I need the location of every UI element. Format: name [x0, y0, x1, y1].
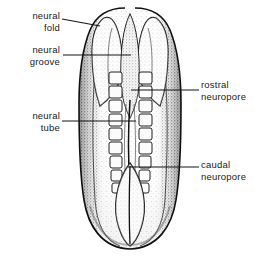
- rostral-neuropore: [121, 14, 139, 118]
- embryo-neural-tube-diagram: neural fold neural groove neural tube ro…: [0, 0, 261, 263]
- embryo-outline: [79, 8, 181, 249]
- somites: [109, 72, 152, 193]
- label-rostral-neuropore: rostral neuropore: [201, 79, 261, 102]
- neural-fold-left: [92, 17, 122, 106]
- label-neural-groove: neural groove: [2, 44, 60, 67]
- label-neural-tube: neural tube: [4, 110, 60, 133]
- label-caudal-neuropore: caudal neuropore: [201, 159, 261, 182]
- label-neural-fold: neural fold: [4, 10, 60, 33]
- leader-neural-fold: [62, 19, 100, 26]
- caudal-neuropore: [116, 163, 145, 246]
- neural-fold-right: [138, 17, 168, 106]
- neural-groove: [125, 100, 136, 186]
- embryo-body: [70, 0, 195, 263]
- leader-lines: [62, 19, 199, 167]
